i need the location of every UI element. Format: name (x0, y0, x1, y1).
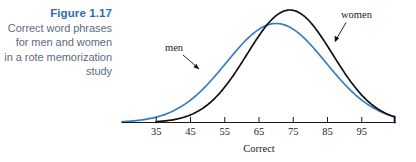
distribution-plot: 35455565758595 Correct men women (112, 0, 416, 162)
figure-container: Figure 1.17 Correct word phrases for men… (0, 0, 416, 162)
figure-caption: Figure 1.17 Correct word phrases for men… (0, 6, 112, 79)
figure-description-line-3: in a rote memorization (0, 50, 112, 65)
figure-description-line-4: study (0, 64, 112, 79)
x-axis-tick-marks (156, 117, 362, 123)
x-axis-tick-label: 55 (220, 126, 231, 137)
annotation-arrow-women-head (335, 36, 340, 42)
figure-number-label: Figure 1.17 (0, 6, 112, 21)
curve-men (122, 24, 395, 123)
figure-description-line-1: Correct word phrases (0, 21, 112, 36)
annotation-label-men: men (165, 42, 184, 53)
curve-women (156, 10, 394, 122)
x-axis-tick-labels: 35455565758595 (151, 126, 367, 137)
x-axis-tick-label: 45 (185, 126, 196, 137)
x-axis-tick-label: 35 (151, 126, 162, 137)
plot-svg: 35455565758595 Correct men women (112, 0, 416, 162)
x-axis-tick-label: 95 (357, 126, 368, 137)
x-axis-tick-label: 75 (288, 126, 299, 137)
x-axis-tick-label: 85 (322, 126, 333, 137)
figure-description-line-2: for men and women (0, 35, 112, 50)
x-axis-tick-label: 65 (254, 126, 265, 137)
x-axis-title: Correct (243, 143, 275, 154)
annotation-label-women: women (341, 9, 373, 20)
